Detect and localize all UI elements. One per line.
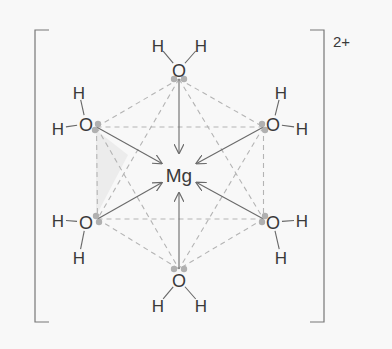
hydrogen-atom: H	[52, 212, 64, 231]
hydrogen-atom: H	[195, 297, 207, 316]
o-h-bond	[66, 125, 77, 127]
o-h-bond	[282, 125, 294, 127]
oxygen-atom: O	[172, 61, 186, 81]
central-atom-mg: Mg	[166, 165, 192, 186]
left-bracket	[35, 30, 49, 322]
oxygen-atom: O	[79, 213, 93, 233]
hydrogen-atom: H	[52, 120, 64, 139]
hydrogen-atom: H	[73, 249, 85, 268]
oxygen-atom: O	[266, 115, 280, 135]
hydrogen-atom: H	[195, 37, 207, 56]
hydrogen-atom: H	[73, 84, 85, 103]
octahedron-edge	[179, 219, 264, 269]
shaded-octahedron-face	[96, 130, 128, 216]
octahedron-edge	[97, 79, 180, 127]
o-h-bond	[275, 231, 279, 249]
hydrogen-atom: H	[275, 84, 287, 103]
hydrogen-atom: H	[275, 249, 287, 268]
hydrogen-atom: H	[296, 120, 308, 139]
lone-pair-dot	[93, 213, 99, 219]
hexaaqua-magnesium-diagram: OHHOHHOHHOHHOHHOHH Mg 2+	[0, 0, 392, 349]
coordinate-bond-arrow	[197, 183, 264, 219]
lone-pair-dot	[96, 219, 102, 225]
lone-pair-dot	[259, 219, 265, 225]
hydrogen-atom: H	[152, 37, 164, 56]
oxygen-atom: O	[266, 213, 280, 233]
oxygen-atom: O	[172, 271, 186, 291]
oxygen-atom: O	[79, 115, 93, 135]
o-h-bond	[81, 231, 85, 249]
hydrogen-atom: H	[296, 212, 308, 231]
hydrogen-atom: H	[152, 297, 164, 316]
lone-pair-dot	[259, 121, 265, 127]
right-bracket	[310, 30, 324, 322]
octahedron-edge	[98, 219, 180, 269]
lone-pair-dot	[95, 121, 101, 127]
octahedron-edge	[179, 79, 264, 127]
ion-charge-label: 2+	[333, 33, 350, 50]
o-h-bond	[66, 221, 77, 222]
coordinate-bond-arrow	[197, 127, 264, 163]
o-h-bond	[282, 221, 294, 222]
